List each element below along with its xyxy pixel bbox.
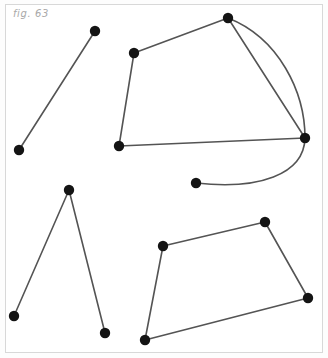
graph-edge: [14, 190, 69, 316]
figure-panel: fig. 63: [0, 0, 328, 358]
graph-vertex: [260, 217, 270, 227]
graph-vertex: [129, 48, 139, 58]
graph-vertex: [64, 185, 74, 195]
graph-vertex: [9, 311, 19, 321]
graph-edge: [265, 222, 308, 298]
graph-vertex: [140, 335, 150, 345]
graph-vertex: [191, 178, 201, 188]
graph-vertex: [303, 293, 313, 303]
graph-edge: [145, 298, 308, 340]
graph-vertex: [300, 133, 310, 143]
graph-vertex: [90, 26, 100, 36]
graph-edge: [196, 138, 305, 185]
graph-vertex: [114, 141, 124, 151]
graph-edge: [19, 31, 95, 150]
graph-edge: [145, 246, 163, 340]
graph-edge: [119, 53, 134, 146]
graph-vertex: [14, 145, 24, 155]
graph-edge: [134, 18, 228, 53]
figure-caption: fig. 63: [13, 8, 49, 19]
graph-edge: [69, 190, 105, 333]
graph-edge: [163, 222, 265, 246]
graph-vertex: [100, 328, 110, 338]
graph-edge: [228, 18, 305, 138]
figure-canvas: [0, 0, 328, 358]
graph-vertex: [223, 13, 233, 23]
graph-vertex: [158, 241, 168, 251]
edges-layer: [14, 18, 308, 340]
graph-edge: [119, 138, 305, 146]
